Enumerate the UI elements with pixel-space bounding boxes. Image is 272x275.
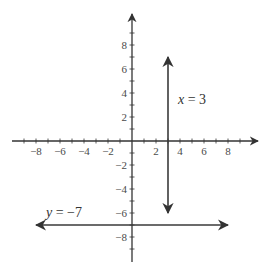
x-tick-label: −6 [54,145,66,157]
x-tick-label: 8 [225,145,231,157]
y-tick-label: 2 [122,111,128,123]
y-tick-label: 6 [122,63,128,75]
x-tick-label: −8 [30,145,42,157]
x-tick-label: 4 [177,145,183,157]
x-tick-label: 2 [153,145,159,157]
y-tick-label: 8 [122,39,128,51]
y-tick-label: −6 [115,207,127,219]
x-tick-label: −4 [78,145,90,157]
x-tick-label: −2 [102,145,114,157]
label-y-equals-neg-7: y = −7 [44,205,82,220]
y-tick-label: −2 [115,159,127,171]
y-tick-label: −8 [115,231,127,243]
y-tick-label: −4 [115,183,127,195]
x-tick-label: 6 [201,145,207,157]
coordinate-plane: −8−6−4−224688642−2−4−6−8 x = 3 y = −7 [0,0,272,275]
y-tick-label: 4 [122,87,128,99]
label-x-equals-3: x = 3 [177,92,206,107]
